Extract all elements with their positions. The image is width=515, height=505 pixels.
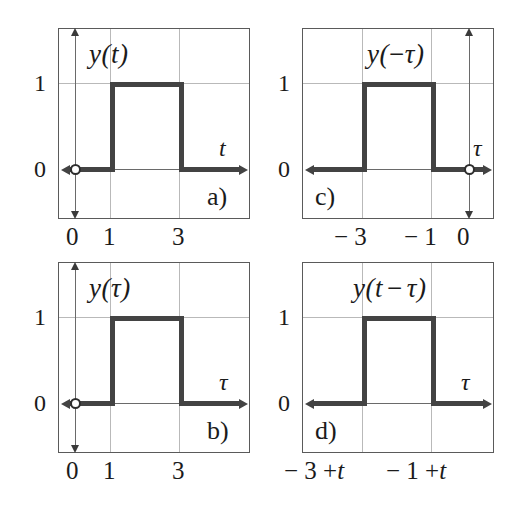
panel-a-trace-rise bbox=[110, 83, 115, 172]
panel-a-ytick-0: 0 bbox=[34, 157, 46, 181]
panel-b-vertical-axis bbox=[75, 269, 76, 446]
panel-a-tag: a) bbox=[207, 184, 227, 210]
panel-d-trace-left bbox=[313, 401, 365, 406]
panel-a-trace-right bbox=[179, 167, 241, 172]
panel-d-frame: y(t−τ) τ d) bbox=[302, 262, 494, 453]
panel-a-xtick-3: 3 bbox=[172, 224, 185, 249]
panel-c: y(−τ) τ c) 1 0 − 3 − 1 0 bbox=[258, 0, 515, 253]
panel-c-func-open: ( bbox=[379, 39, 389, 69]
panel-b-trace-top bbox=[110, 316, 184, 321]
panel-d-axis-label: τ bbox=[461, 370, 470, 394]
panel-d-func-open: ( bbox=[365, 273, 375, 303]
panel-a: y(t) t a) 1 0 0 1 3 bbox=[0, 0, 258, 253]
panel-c-function-label: y(−τ) bbox=[367, 41, 424, 68]
panel-a-origin-marker bbox=[70, 164, 81, 175]
panel-a-function-label: y(t) bbox=[89, 41, 128, 68]
panel-d-func-minus: − bbox=[383, 273, 407, 303]
panel-d-xtick-right-prefix: − 1 + bbox=[386, 457, 439, 484]
panel-b-xtick-1: 1 bbox=[103, 458, 116, 483]
panel-b-xtick-0: 0 bbox=[66, 458, 79, 483]
panel-d-ytick-0: 0 bbox=[278, 391, 290, 415]
panel-d-axis-arrow-right bbox=[483, 399, 492, 409]
panel-d-xtick-right-var: t bbox=[439, 457, 446, 484]
panel-b-axis-arrow-right bbox=[239, 399, 248, 409]
panel-d-xtick-left-prefix: − 3 + bbox=[284, 457, 337, 484]
panel-b-xtick-3: 3 bbox=[172, 458, 185, 483]
panel-a-vertical-axis bbox=[75, 35, 76, 212]
panel-c-frame: y(−τ) τ c) bbox=[302, 28, 494, 219]
panel-c-trace-right bbox=[431, 167, 485, 172]
panel-b-vertical-axis-arrow-up bbox=[71, 262, 79, 270]
panel-d-trace-right bbox=[431, 401, 485, 406]
panel-c-trace-rise bbox=[362, 83, 367, 172]
panel-b-tag: b) bbox=[207, 418, 229, 444]
panel-b-frame: y(τ) τ b) bbox=[58, 262, 250, 453]
panel-a-trace-top bbox=[110, 82, 184, 87]
panel-c-func-minus: − bbox=[389, 39, 405, 69]
panel-c-trace-fall bbox=[431, 83, 436, 172]
panel-d-xtick-minus3-plus-t: − 3 +t bbox=[284, 458, 344, 483]
panel-c-vertical-axis-arrow-down bbox=[465, 211, 473, 219]
panel-d-xtick-left-var: t bbox=[337, 457, 344, 484]
panel-b-vertical-axis-arrow-down bbox=[71, 445, 79, 453]
panel-c-xtick-minus1: − 1 bbox=[404, 224, 437, 249]
panel-a-axis-arrow-right bbox=[239, 165, 248, 175]
figure-container: y(t) t a) 1 0 0 1 3 bbox=[0, 0, 515, 505]
panel-c-ytick-1: 1 bbox=[278, 71, 290, 95]
panel-a-xtick-1: 1 bbox=[103, 224, 116, 249]
panel-a-trace-fall bbox=[179, 83, 184, 172]
panel-d-axis-arrow-left bbox=[305, 399, 314, 409]
panel-c-axis-arrow-right bbox=[483, 165, 492, 175]
panel-d-func-close: ) bbox=[417, 273, 427, 303]
panel-d-trace-fall bbox=[431, 317, 436, 406]
panel-c-trace-left bbox=[313, 167, 365, 172]
panel-b-axis-label: τ bbox=[219, 370, 228, 394]
panel-a-xtick-0: 0 bbox=[66, 224, 79, 249]
panel-d-xtick-minus1-plus-t: − 1 +t bbox=[386, 458, 446, 483]
panel-c-xtick-0: 0 bbox=[457, 224, 470, 249]
panel-c-trace-top bbox=[362, 82, 436, 87]
panel-a-frame: y(t) t a) bbox=[58, 28, 250, 219]
panel-a-ytick-1: 1 bbox=[34, 71, 46, 95]
panel-c-axis-label: τ bbox=[473, 136, 482, 160]
panel-a-axis-arrow-left bbox=[61, 165, 70, 175]
panel-c-vertical-axis-arrow-up bbox=[465, 28, 473, 36]
panel-b-ytick-0: 0 bbox=[34, 391, 46, 415]
panel-b: y(τ) τ b) 1 0 0 1 3 bbox=[0, 253, 258, 505]
panel-c-func-tau: τ bbox=[405, 39, 415, 69]
panel-d-function-label: y(t−τ) bbox=[353, 275, 426, 302]
panel-d-func-t: t bbox=[375, 273, 383, 303]
panel-b-trace-rise bbox=[110, 317, 115, 406]
panel-c-ytick-0: 0 bbox=[278, 157, 290, 181]
panel-d-func-tau: τ bbox=[407, 273, 417, 303]
panel-b-trace-fall bbox=[179, 317, 184, 406]
panel-d-trace-rise bbox=[362, 317, 367, 406]
panel-d-func-y: y bbox=[353, 273, 365, 303]
panel-d-tag: d) bbox=[315, 418, 337, 444]
panel-c-vertical-axis bbox=[469, 35, 470, 212]
panel-d-ytick-1: 1 bbox=[278, 305, 290, 329]
panel-b-function-label: y(τ) bbox=[89, 275, 131, 302]
panel-b-trace-right bbox=[179, 401, 241, 406]
panel-a-vertical-axis-arrow-up bbox=[71, 28, 79, 36]
panel-d: y(t−τ) τ d) 1 0 − 3 +t − 1 +t bbox=[258, 253, 515, 505]
panel-c-origin-marker bbox=[464, 164, 475, 175]
panel-c-func-close: ) bbox=[415, 39, 425, 69]
panel-a-axis-label: t bbox=[219, 136, 226, 160]
panel-c-axis-arrow-left bbox=[305, 165, 314, 175]
panel-b-ytick-1: 1 bbox=[34, 305, 46, 329]
panel-d-trace-top bbox=[362, 316, 436, 321]
panel-c-xtick-minus3: − 3 bbox=[334, 224, 367, 249]
panel-a-vertical-axis-arrow-down bbox=[71, 211, 79, 219]
panel-c-func-y: y bbox=[367, 39, 379, 69]
panel-c-tag: c) bbox=[315, 184, 335, 210]
panel-b-axis-arrow-left bbox=[61, 399, 70, 409]
panel-b-origin-marker bbox=[70, 398, 81, 409]
